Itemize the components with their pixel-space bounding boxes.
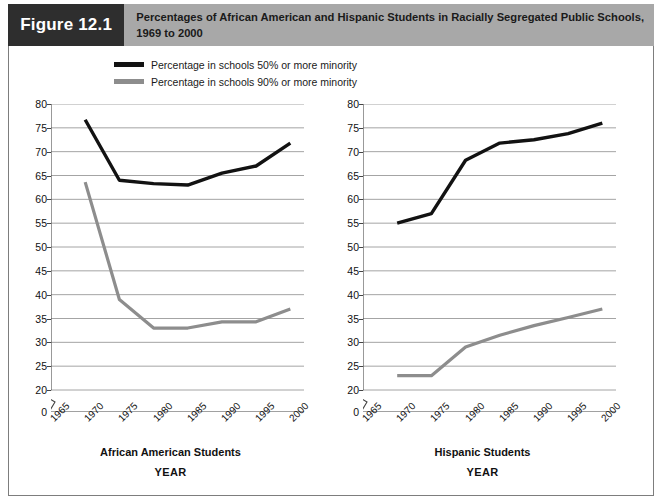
panel-african-american: PERCENTAGE OF STUDENTS 80757065605550454… xyxy=(9,94,332,494)
y-tick-mark xyxy=(47,271,51,272)
y-tick-label: 45 xyxy=(35,265,47,277)
figure-title-line-1: Percentages of African American and Hisp… xyxy=(136,9,644,25)
y-tick-label: 70 xyxy=(35,146,47,158)
y-tick-label: 40 xyxy=(347,289,359,301)
y-tick-label: 80 xyxy=(35,98,47,110)
y-tick-label: 55 xyxy=(35,217,47,229)
chart-svg xyxy=(51,104,304,412)
y-tick-mark xyxy=(359,152,363,153)
figure-header: Figure 12.1 Percentages of African Ameri… xyxy=(8,4,654,46)
y-tick-mark xyxy=(359,199,363,200)
y-tick-mark xyxy=(359,247,363,248)
chart-panels: PERCENTAGE OF STUDENTS 80757065605550454… xyxy=(9,94,655,494)
y-tick-mark xyxy=(47,104,51,105)
y-tick-mark xyxy=(359,366,363,367)
y-tick-mark xyxy=(47,319,51,320)
y-tick-mark xyxy=(359,128,363,129)
y-tick-mark xyxy=(359,223,363,224)
legend-item-pct50: Percentage in schools 50% or more minori… xyxy=(114,56,357,73)
y-tick-mark xyxy=(359,342,363,343)
y-tick-mark xyxy=(47,223,51,224)
y-tick-mark xyxy=(47,176,51,177)
chart-svg xyxy=(363,104,616,412)
y-tick-label: 30 xyxy=(347,336,359,348)
y-tick-mark xyxy=(47,199,51,200)
data-series-line xyxy=(397,123,602,223)
y-tick-mark xyxy=(47,390,51,391)
y-tick-label: 20 xyxy=(347,384,359,396)
legend-swatch-icon-pct50 xyxy=(114,62,144,67)
panel-caption-right: Hispanic Students xyxy=(321,446,644,458)
plot-area-left: 8075706560555045403530252001965197019751… xyxy=(51,104,304,412)
y-tick-mark xyxy=(359,390,363,391)
figure-number-badge: Figure 12.1 xyxy=(8,4,124,46)
y-tick-mark xyxy=(359,104,363,105)
y-tick-label: 65 xyxy=(347,170,359,182)
legend-label-pct50: Percentage in schools 50% or more minori… xyxy=(151,59,357,71)
y-tick-label: 0 xyxy=(353,406,359,418)
figure-container: Figure 12.1 Percentages of African Ameri… xyxy=(8,4,654,498)
y-tick-label: 70 xyxy=(347,146,359,158)
y-tick-label: 30 xyxy=(35,336,47,348)
y-tick-mark xyxy=(359,319,363,320)
y-tick-label: 0 xyxy=(41,406,47,418)
y-tick-label: 20 xyxy=(35,384,47,396)
y-tick-label: 75 xyxy=(35,122,47,134)
y-tick-mark xyxy=(47,342,51,343)
y-tick-label: 60 xyxy=(35,193,47,205)
y-tick-mark xyxy=(47,295,51,296)
y-tick-mark xyxy=(359,176,363,177)
panel-hispanic: 8075706560555045403530252001965197019751… xyxy=(321,94,644,494)
y-tick-label: 35 xyxy=(35,313,47,325)
y-tick-label: 25 xyxy=(347,360,359,372)
chart-legend: Percentage in schools 50% or more minori… xyxy=(114,56,357,90)
y-tick-mark xyxy=(47,128,51,129)
figure-body-frame: Percentage in schools 50% or more minori… xyxy=(8,46,654,496)
x-axis-title-left: YEAR xyxy=(9,466,332,478)
legend-swatch-icon-pct90 xyxy=(114,79,144,84)
plot-area-right: 8075706560555045403530252001965197019751… xyxy=(363,104,616,412)
legend-label-pct90: Percentage in schools 90% or more minori… xyxy=(151,76,357,88)
y-tick-mark xyxy=(47,152,51,153)
y-tick-mark xyxy=(359,295,363,296)
y-tick-label: 75 xyxy=(347,122,359,134)
x-axis-title-right: YEAR xyxy=(321,466,644,478)
figure-title-band: Percentages of African American and Hisp… xyxy=(124,4,654,46)
panel-caption-left: African American Students xyxy=(9,446,332,458)
y-tick-label: 65 xyxy=(35,170,47,182)
data-series-line xyxy=(85,182,290,328)
plot-canvas-right xyxy=(363,104,616,412)
y-tick-label: 55 xyxy=(347,217,359,229)
y-tick-label: 50 xyxy=(35,241,47,253)
plot-canvas-left xyxy=(51,104,304,412)
figure-title-line-2: 1969 to 2000 xyxy=(136,25,644,41)
legend-item-pct90: Percentage in schools 90% or more minori… xyxy=(114,73,357,90)
y-tick-label: 25 xyxy=(35,360,47,372)
y-tick-label: 35 xyxy=(347,313,359,325)
y-tick-mark xyxy=(47,247,51,248)
y-tick-label: 80 xyxy=(347,98,359,110)
y-tick-mark xyxy=(47,366,51,367)
y-tick-label: 50 xyxy=(347,241,359,253)
y-tick-mark xyxy=(359,271,363,272)
y-tick-label: 40 xyxy=(35,289,47,301)
y-tick-label: 60 xyxy=(347,193,359,205)
y-tick-label: 45 xyxy=(347,265,359,277)
